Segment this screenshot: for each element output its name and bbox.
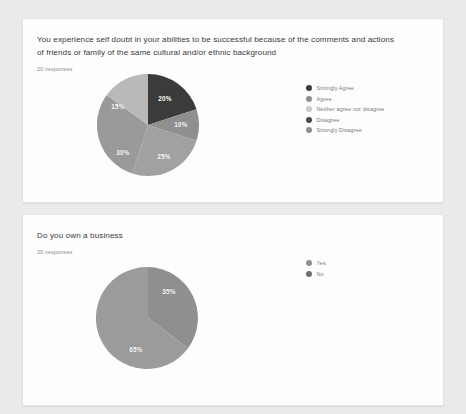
pie-chart-2: 35% 65% <box>95 265 201 371</box>
forms-response-page: You experience self doubt in your abilit… <box>0 0 466 414</box>
chart-area-2: 35% 65% <box>37 255 429 371</box>
pie-label-agree: 10% <box>174 121 187 128</box>
pie-graphic-2 <box>95 265 201 371</box>
legend-label: Yes <box>317 260 326 266</box>
pie-label-strongly-agree: 20% <box>158 95 171 102</box>
legend-swatch-icon <box>306 117 312 123</box>
legend-item-agree: Agree <box>306 96 385 102</box>
legend-label: Strongly Disagree <box>317 127 362 133</box>
legend-item-strongly-agree: Strongly Agree <box>306 85 385 91</box>
legend-item-no: No <box>306 271 326 277</box>
legend-label: Strongly Agree <box>317 85 354 91</box>
legend-swatch-icon <box>306 96 312 102</box>
legend-item-strongly-disagree: Strongly Disagree <box>306 127 385 133</box>
legend-swatch-icon <box>306 85 312 91</box>
legend-label: Neither agree nor disagree <box>317 106 385 112</box>
response-card-own-business: Do you own a business 20 responses 35% 6… <box>22 214 444 406</box>
legend-label: No <box>317 271 324 277</box>
question-title: Do you own a business <box>37 229 397 242</box>
legend-item-yes: Yes <box>306 260 326 266</box>
legend-label: Agree <box>317 96 332 102</box>
legend-item-neither: Neither agree nor disagree <box>306 106 385 112</box>
legend-item-disagree: Disagree <box>306 117 385 123</box>
legend-label: Disagree <box>317 117 340 123</box>
question-title: You experience self doubt in your abilit… <box>37 33 397 59</box>
legend-swatch-icon <box>306 271 312 277</box>
pie-chart-1: 20% 10% 25% 30% 15% <box>95 72 201 178</box>
pie-label-yes: 35% <box>162 288 175 295</box>
pie-label-no: 65% <box>129 346 142 353</box>
chart-legend-2: Yes No <box>306 260 326 277</box>
legend-swatch-icon <box>306 260 312 266</box>
pie-label-strongly-disagree: 15% <box>111 103 124 110</box>
response-card-self-doubt: You experience self doubt in your abilit… <box>22 18 444 203</box>
pie-svg-2 <box>95 265 201 371</box>
pie-label-neither: 25% <box>157 153 170 160</box>
chart-legend-1: Strongly Agree Agree Neither agree nor d… <box>306 85 385 133</box>
legend-swatch-icon <box>306 106 312 112</box>
pie-label-disagree: 30% <box>116 149 129 156</box>
legend-swatch-icon <box>306 127 312 133</box>
